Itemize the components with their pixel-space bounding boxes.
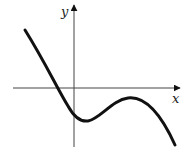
function-graph: y x bbox=[0, 0, 191, 155]
x-axis-label: x bbox=[172, 91, 180, 106]
y-axis-label: y bbox=[60, 4, 69, 19]
